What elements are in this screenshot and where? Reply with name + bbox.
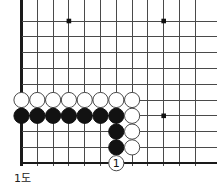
white-stone [14, 92, 29, 107]
white-stone [46, 92, 61, 107]
star-point-right-center-icon [161, 114, 166, 119]
stone-black-b-c2-r6 [46, 108, 61, 123]
stone-black-b-c6-r8 [109, 140, 124, 155]
stone-white-w-c4-r5 [77, 92, 92, 107]
white-stone [77, 92, 92, 107]
white-stone [125, 92, 140, 107]
stone-white-w-c1-r5 [30, 92, 45, 107]
stone-white-w-c7-r5 [125, 92, 140, 107]
black-stone [30, 108, 45, 123]
stone-move-number: 1 [113, 157, 120, 170]
black-stone [61, 108, 76, 123]
stone-black-b-c1-r6 [30, 108, 45, 123]
star-point-top-right-icon [161, 19, 166, 24]
stone-black-b-c6-r6 [109, 108, 124, 123]
stone-white-w-c7-r6 [125, 108, 140, 123]
white-stone [30, 92, 45, 107]
go-board: 1 [0, 0, 217, 195]
white-stone [61, 92, 76, 107]
go-diagram-figure: 1 1도 [0, 0, 217, 195]
white-stone [93, 92, 108, 107]
stone-white-w-c2-r5 [46, 92, 61, 107]
black-stone [46, 108, 61, 123]
black-stone [109, 108, 124, 123]
stone-black-b-c3-r6 [61, 108, 76, 123]
black-stone [109, 140, 124, 155]
white-stone [125, 140, 140, 155]
stone-white-w-c6-r9-move1: 1 [109, 156, 124, 171]
stone-black-b-c0-r6 [14, 108, 29, 123]
stone-black-b-c5-r6 [93, 108, 108, 123]
stone-white-w-c7-r7 [125, 124, 140, 139]
stone-white-w-c5-r5 [93, 92, 108, 107]
figure-caption: 1도 [14, 172, 31, 185]
star-point-top-left-icon [67, 19, 72, 24]
stone-white-w-c6-r5 [109, 92, 124, 107]
black-stone [14, 108, 29, 123]
black-stone [77, 108, 92, 123]
black-stone [109, 124, 124, 139]
black-stone [93, 108, 108, 123]
white-stone [109, 92, 124, 107]
white-stone [125, 124, 140, 139]
stone-black-b-c4-r6 [77, 108, 92, 123]
stone-white-w-c0-r5 [14, 92, 29, 107]
white-stone [125, 108, 140, 123]
stone-white-w-c7-r8 [125, 140, 140, 155]
stone-white-w-c3-r5 [61, 92, 76, 107]
stone-black-b-c6-r7 [109, 124, 124, 139]
